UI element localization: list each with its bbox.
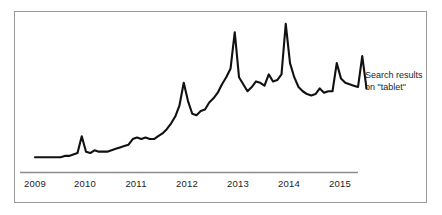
series-annotation: Search results on "tablet" bbox=[365, 70, 423, 93]
x-tick-2015: 2015 bbox=[329, 178, 351, 189]
series-annotation-line-2: on "tablet" bbox=[365, 82, 423, 94]
x-tick-2009: 2009 bbox=[24, 178, 46, 189]
x-tick-2010: 2010 bbox=[74, 178, 96, 189]
line-chart-plot bbox=[0, 0, 442, 215]
series-line-search-results-tablet bbox=[35, 24, 367, 157]
x-tick-2013: 2013 bbox=[227, 178, 249, 189]
series-annotation-line-1: Search results bbox=[365, 70, 423, 82]
x-tick-2012: 2012 bbox=[176, 178, 198, 189]
x-tick-2011: 2011 bbox=[125, 178, 146, 189]
x-tick-2014: 2014 bbox=[278, 178, 300, 189]
chart-figure: 2009 2010 2011 2012 2013 2014 2015 Searc… bbox=[0, 0, 442, 215]
